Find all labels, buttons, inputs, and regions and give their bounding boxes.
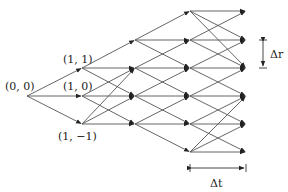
tree-edge xyxy=(135,11,189,40)
delta-t-dimension: Δt xyxy=(190,164,246,190)
node-labels: (0, 0)(1, 1)(1, 0)(1, −1) xyxy=(5,53,97,143)
delta-t-label: Δt xyxy=(210,177,223,190)
node-1-m1-label: (1, −1) xyxy=(58,130,97,143)
node-1-0-label: (1, 0) xyxy=(63,80,93,93)
tree-edge xyxy=(190,11,245,67)
tree-edge xyxy=(135,124,189,152)
node-0-0-label: (0, 0) xyxy=(5,80,35,93)
node-1-1-label: (1, 1) xyxy=(63,53,93,66)
tree-edge xyxy=(27,96,81,124)
delta-r-dimension: Δr xyxy=(259,40,284,68)
trinomial-tree-diagram: (0, 0)(1, 1)(1, 0)(1, −1) Δr Δt xyxy=(0,0,288,192)
delta-r-label: Δr xyxy=(270,48,284,61)
